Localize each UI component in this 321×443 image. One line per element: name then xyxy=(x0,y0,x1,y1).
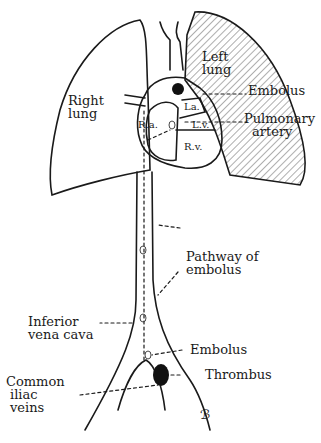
label-right-ventricle: R.v. xyxy=(184,142,202,152)
label-right-atrium: R.a. xyxy=(138,120,158,130)
label-left-atrium: La. xyxy=(184,102,200,112)
label-pathway: Pathway ofembolus xyxy=(186,250,259,276)
embolus-pathway-diagram: Rightlung Leftlung Embolus Pulmonaryarte… xyxy=(0,0,321,443)
label-left-ventricle: L.v. xyxy=(192,120,209,130)
label-left-lung: Leftlung xyxy=(202,50,231,76)
embolus-pulmonary xyxy=(172,83,184,95)
label-thrombus: Thrombus xyxy=(205,368,272,381)
left-lung xyxy=(185,12,305,185)
thrombus xyxy=(153,364,169,386)
artist-signature: ℬ xyxy=(200,408,210,421)
label-common-iliac-veins: Commoniliacveins xyxy=(6,375,65,414)
label-embolus-bottom: Embolus xyxy=(190,343,247,356)
label-pulmonary-artery: Pulmonaryartery xyxy=(244,112,315,138)
label-ivc: Inferiorvena cava xyxy=(28,315,93,341)
label-embolus-top: Embolus xyxy=(248,84,305,97)
label-right-lung: Rightlung xyxy=(68,94,104,120)
